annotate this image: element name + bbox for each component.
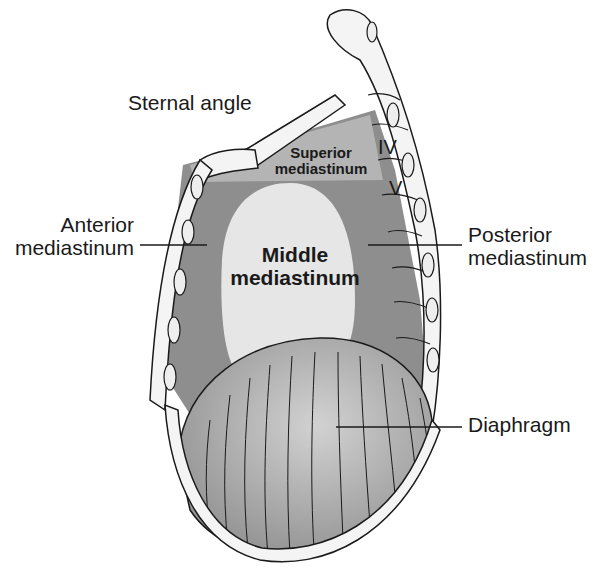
label-vertebra-v: V — [389, 178, 402, 200]
label-middle-line2: mediastinum — [220, 267, 370, 290]
label-superior-line2: mediastinum — [256, 161, 386, 177]
label-anterior-line1: Anterior — [10, 214, 134, 237]
label-diaphragm: Diaphragm — [468, 414, 571, 437]
label-posterior-line2: mediastinum — [468, 247, 587, 270]
label-superior-line1: Superior — [256, 145, 386, 161]
label-superior-mediastinum: Superior mediastinum — [256, 145, 386, 177]
label-posterior-mediastinum: Posterior mediastinum — [468, 224, 587, 269]
label-middle-mediastinum: Middle mediastinum — [220, 244, 370, 289]
label-middle-line1: Middle — [220, 244, 370, 267]
label-anterior-mediastinum: Anterior mediastinum — [10, 214, 134, 259]
label-anterior-line2: mediastinum — [10, 237, 134, 260]
label-vertebra-iv: IV — [378, 137, 397, 159]
label-posterior-line1: Posterior — [468, 224, 587, 247]
label-sternal-angle: Sternal angle — [128, 92, 252, 115]
mediastinum-diagram: Sternal angle Superior mediastinum Anter… — [0, 0, 593, 577]
